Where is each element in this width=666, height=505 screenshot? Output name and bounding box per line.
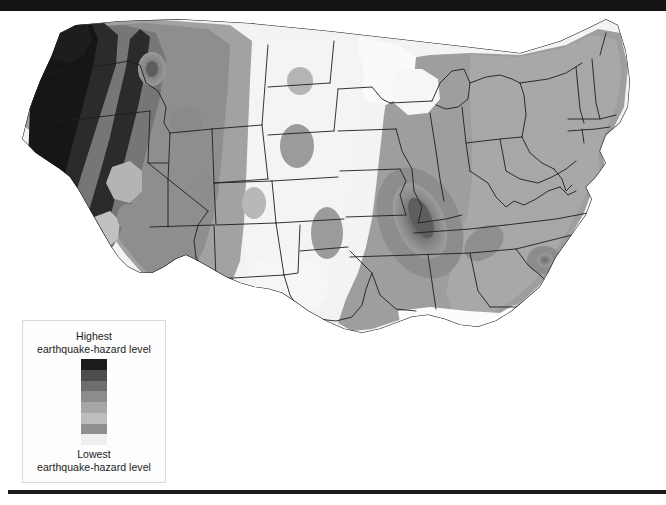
legend-highest-line1: Highest: [27, 330, 161, 343]
hazard-hotspot-dakota: [287, 67, 313, 95]
legend-highest-line2: earthquake-hazard level: [27, 343, 161, 356]
hazard-hotspot-idaho-core: [146, 61, 158, 77]
hazard-hotspot-colorado: [242, 187, 266, 219]
hazard-hotspot-oklahoma: [311, 207, 343, 259]
legend-ramp-band-7: [81, 424, 107, 435]
legend-lowest-line1: Lowest: [27, 448, 161, 461]
legend-ramp-band-5: [81, 402, 107, 413]
hazard-hotspot-nevada-south: [117, 204, 139, 230]
legend-ramp-band-2: [81, 370, 107, 381]
legend-ramp-band-6: [81, 413, 107, 424]
legend-ramp-band-8: [81, 434, 107, 445]
map-legend: Highest earthquake-hazard level Lowest e…: [22, 320, 166, 483]
hazard-zone-charleston-core: [537, 253, 553, 267]
footer-rule: [8, 490, 666, 494]
legend-color-ramp: [81, 359, 107, 445]
page-canvas: Highest earthquake-hazard level Lowest e…: [0, 0, 666, 505]
legend-ramp-band-4: [81, 391, 107, 402]
legend-lowest-line2: earthquake-hazard level: [27, 461, 161, 474]
header-black-band: [0, 0, 666, 11]
legend-ramp-band-1: [81, 359, 107, 370]
legend-ramp-band-3: [81, 381, 107, 392]
legend-highest-caption: Highest earthquake-hazard level: [27, 330, 161, 356]
hazard-hotspot-nebraska: [280, 124, 314, 168]
legend-lowest-caption: Lowest earthquake-hazard level: [27, 448, 161, 474]
